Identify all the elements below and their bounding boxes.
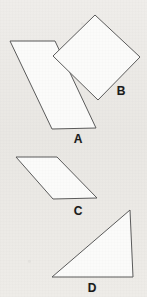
shape-d-polygon[interactable] <box>52 210 133 277</box>
worksheet-canvas: A B C D <box>0 0 147 297</box>
shape-c-polygon[interactable] <box>16 157 97 199</box>
shape-c-label: C <box>74 205 83 217</box>
shapes-layer <box>0 0 147 297</box>
shape-b-label: B <box>117 85 126 97</box>
shape-a-label: A <box>74 133 83 145</box>
shape-d-label: D <box>88 282 97 294</box>
